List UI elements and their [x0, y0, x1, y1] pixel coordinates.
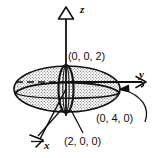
z-axis-arrowhead-icon	[59, 7, 74, 19]
x-intercept-label: (2, 0, 0)	[64, 136, 101, 147]
leader-to-x-intercept	[71, 110, 83, 133]
figure-3d-ellipsoid: z y x (0, 0, 2) (0, 4, 0) (2, 0, 0)	[0, 0, 160, 158]
y-intercept-label: (0, 4, 0)	[96, 113, 133, 124]
z-axis-label: z	[80, 4, 84, 15]
y-axis-label: y	[139, 69, 144, 80]
leader-to-x-axis-point	[38, 109, 62, 136]
x-axis-label: x	[44, 140, 50, 151]
z-intercept-label: (0, 0, 2)	[68, 51, 105, 62]
ellipsoid-body	[14, 66, 120, 112]
